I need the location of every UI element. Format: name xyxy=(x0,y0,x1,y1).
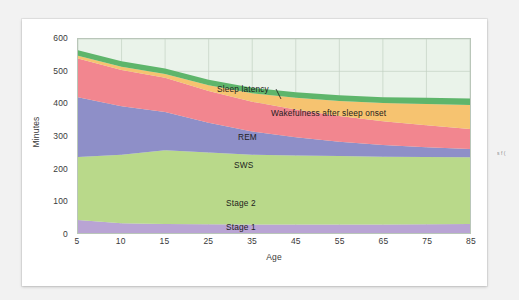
annotation-sleep-latency: Sleep latency xyxy=(217,84,269,94)
x-tick-35: 35 xyxy=(247,236,257,246)
x-tick-55: 55 xyxy=(335,236,345,246)
stacked-area-svg xyxy=(78,39,470,233)
area-stage-2 xyxy=(78,150,470,224)
x-tick-75: 75 xyxy=(422,236,432,246)
annotation-rem: REM xyxy=(238,132,257,142)
annotation-stage-2: Stage 2 xyxy=(226,198,256,208)
x-tick-5: 5 xyxy=(75,236,80,246)
annotation-stage-1: Stage 1 xyxy=(226,222,256,232)
y-tick-400: 400 xyxy=(53,98,68,108)
y-axis-title: Minutes xyxy=(31,102,41,162)
area-bands xyxy=(78,50,470,233)
x-tick-25: 25 xyxy=(203,236,213,246)
x-axis-title: Age xyxy=(77,252,471,262)
x-tick-15: 15 xyxy=(160,236,170,246)
y-tick-0: 0 xyxy=(63,229,68,239)
y-tick-200: 200 xyxy=(53,164,68,174)
annotation-sws: SWS xyxy=(234,160,253,170)
figure-card: 600 500 400 300 200 100 0 Minutes Sleep … xyxy=(22,19,487,286)
x-axis: 5101525354555657585 xyxy=(77,236,471,252)
y-tick-500: 500 xyxy=(53,66,68,76)
x-tick-65: 65 xyxy=(379,236,389,246)
y-tick-100: 100 xyxy=(53,196,68,206)
annotation-wakefulness: Wakefulness after sleep onset xyxy=(271,108,386,118)
plot-area xyxy=(77,38,471,234)
figure-page: 600 500 400 300 200 100 0 Minutes Sleep … xyxy=(0,0,519,300)
y-tick-600: 600 xyxy=(53,33,68,43)
figure-caption-fragment: s f ( xyxy=(497,150,519,157)
y-axis: 600 500 400 300 200 100 0 xyxy=(22,38,75,234)
y-tick-300: 300 xyxy=(53,131,68,141)
x-tick-10: 10 xyxy=(116,236,126,246)
x-tick-85: 85 xyxy=(466,236,476,246)
x-tick-45: 45 xyxy=(291,236,301,246)
